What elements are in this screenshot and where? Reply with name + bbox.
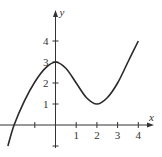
x-axis-label: x xyxy=(148,111,154,123)
x-tick-label: 1 xyxy=(73,129,79,141)
y-tick-label: 2 xyxy=(43,77,49,89)
x-tick-label: 3 xyxy=(115,129,121,141)
axes xyxy=(0,10,154,148)
y-axis-label: y xyxy=(59,6,65,18)
x-tick-label: 4 xyxy=(136,129,142,141)
x-tick-label: 2 xyxy=(94,129,100,141)
x-axis-arrow-icon xyxy=(147,123,154,128)
y-tick-label: 4 xyxy=(43,35,49,47)
y-tick-label: 1 xyxy=(43,98,49,110)
tick-marks xyxy=(35,41,139,146)
function-graph: 12341234 x y xyxy=(0,0,162,157)
y-axis-arrow-icon xyxy=(53,10,58,17)
